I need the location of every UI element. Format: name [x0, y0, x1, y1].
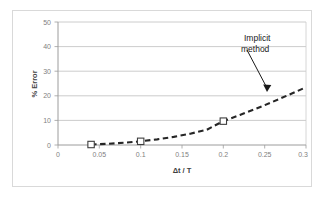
- x-tick-label-015: 0.15: [175, 151, 189, 158]
- y-tick-label-20: 20: [43, 92, 51, 99]
- x-tick-label-02: 0.2: [218, 151, 228, 158]
- y-tick-labels: 50 40 30 20 10 0: [43, 19, 51, 149]
- x-tick-label-025: 0.25: [258, 151, 272, 158]
- data-point-marker-1: [137, 138, 143, 144]
- error-vs-timestep-chart: 50 40 30 20 10 0 0 0.05 0.1 0.15 0.2 0.2…: [0, 0, 325, 204]
- annotation-label: Implicit method: [241, 33, 271, 54]
- x-tick-marks: [58, 145, 306, 149]
- y-tick-label-40: 40: [43, 43, 51, 50]
- x-tick-label-01: 0.1: [136, 151, 146, 158]
- x-tick-label-0: 0: [56, 151, 60, 158]
- data-point-marker-0: [88, 141, 94, 147]
- x-tick-labels: 0 0.05 0.1 0.15 0.2 0.25 0.3: [56, 151, 308, 158]
- x-tick-label-03: 0.3: [298, 151, 308, 158]
- x-axis-title: Δt / T: [173, 166, 192, 175]
- annotation-line-2: method: [241, 44, 270, 54]
- y-axis-title: % Error: [30, 70, 39, 97]
- y-tick-label-30: 30: [43, 68, 51, 75]
- data-point-marker-2: [220, 118, 226, 124]
- x-tick-label-005: 0.05: [92, 151, 106, 158]
- chart-figure: 50 40 30 20 10 0 0 0.05 0.1 0.15 0.2 0.2…: [0, 0, 325, 204]
- y-tick-label-10: 10: [43, 117, 51, 124]
- y-tick-marks: [55, 22, 59, 145]
- y-tick-label-50: 50: [43, 19, 51, 26]
- y-tick-label-0: 0: [47, 142, 51, 149]
- annotation-line-1: Implicit: [244, 33, 271, 43]
